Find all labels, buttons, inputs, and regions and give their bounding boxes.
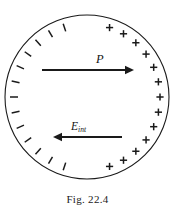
plus-sign-icon	[150, 123, 157, 130]
internal-field-arrow-head	[53, 133, 62, 141]
plus-sign-icon	[120, 157, 127, 164]
polarization-vector-label: P	[96, 53, 104, 66]
dielectric-sphere-diagram	[0, 0, 175, 205]
plus-sign-icon	[155, 109, 162, 116]
plus-sign-icon	[142, 50, 149, 57]
polarization-arrow	[42, 66, 134, 74]
plus-sign-icon	[142, 136, 149, 143]
field-symbol: E	[71, 120, 78, 132]
plus-sign-icon	[132, 148, 139, 155]
plus-sign-icon	[155, 78, 162, 85]
internal-field-arrow	[53, 133, 122, 141]
minus-sign-icon	[17, 66, 24, 69]
plus-sign-icon	[120, 30, 127, 37]
sphere-outline-group	[5, 15, 169, 179]
minus-sign-icon	[63, 163, 65, 171]
minus-sign-icon	[25, 52, 31, 57]
minus-sign-icon	[35, 40, 40, 46]
minus-sign-icon	[12, 81, 20, 83]
plus-sign-icon	[150, 64, 157, 71]
field-subscript: int	[78, 125, 86, 134]
positive-charge-group	[106, 24, 164, 170]
minus-sign-icon	[17, 125, 24, 128]
plus-sign-icon	[132, 39, 139, 46]
minus-sign-icon	[12, 111, 20, 113]
minus-sign-icon	[35, 148, 40, 154]
minus-sign-icon	[49, 30, 53, 37]
minus-sign-icon	[25, 138, 31, 143]
minus-sign-icon	[63, 24, 65, 32]
negative-charge-group	[10, 24, 66, 170]
plus-sign-icon	[106, 163, 113, 170]
plus-sign-icon	[156, 93, 163, 100]
sphere-outline	[5, 15, 169, 179]
figure-container: P Eint Fig. 22.4	[0, 0, 175, 205]
internal-field-vector-label: Eint	[71, 121, 86, 133]
minus-sign-icon	[49, 157, 53, 164]
vector-arrow-group	[42, 66, 134, 141]
polarization-arrow-head	[125, 66, 134, 74]
figure-caption: Fig. 22.4	[0, 193, 175, 205]
plus-sign-icon	[106, 24, 113, 31]
